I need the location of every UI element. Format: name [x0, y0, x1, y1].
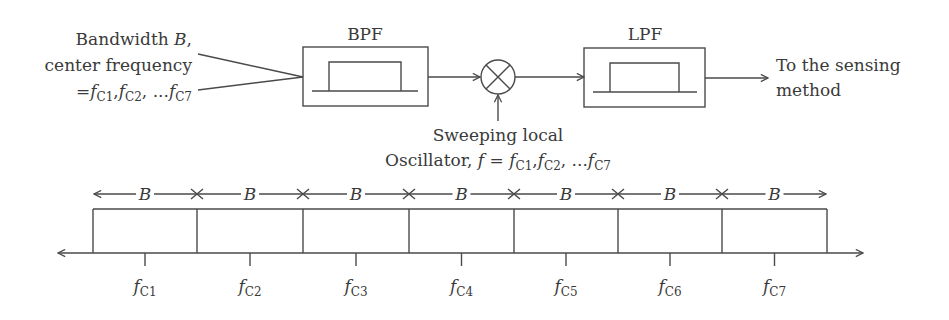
bandwidth-label: B — [454, 184, 468, 204]
input-label-line3: =fC1,fC2, ...fC7 — [76, 81, 192, 104]
channel-center-label: fC1 — [131, 276, 156, 299]
lpf-block: LPF — [584, 24, 705, 107]
channel-center-label: fC5 — [552, 276, 577, 299]
channel-center-label: fC6 — [656, 276, 681, 299]
bandwidth-label: B — [243, 184, 257, 204]
output-label-line1: To the sensing — [776, 55, 901, 75]
input-label: Bandwidth B, center frequency =fC1,fC2, … — [45, 29, 193, 104]
bandwidth-label: B — [349, 184, 363, 204]
channel-center-label: fC7 — [761, 276, 786, 299]
bandwidth-label: B — [138, 184, 152, 204]
input-line-upper — [198, 54, 303, 77]
channel-spectrum: fC1BfC2BfC3BfC4BfC5BfC6BfC7B — [58, 184, 863, 299]
lpf-label: LPF — [628, 24, 663, 44]
channel-center-label: fC2 — [236, 276, 261, 299]
lpf-passband-icon — [610, 63, 679, 92]
bpf-label: BPF — [347, 24, 383, 44]
lpf-box — [584, 48, 705, 107]
bandwidth-label: B — [559, 184, 573, 204]
input-line-lower — [198, 77, 303, 90]
bpf-box — [303, 47, 428, 106]
input-label-line1: Bandwidth B, — [76, 29, 192, 49]
bandwidth-label: B — [767, 184, 781, 204]
channel-center-label: fC4 — [448, 276, 473, 299]
oscillator-label-line2: Oscillator, f = fC1,fC2, ...fC7 — [385, 150, 611, 173]
sweep-receiver-diagram: Bandwidth B, center frequency =fC1,fC2, … — [0, 0, 949, 320]
bandwidth-label: B — [663, 184, 677, 204]
oscillator-label-line1: Sweeping local — [433, 125, 564, 145]
output-label-line2: method — [776, 80, 841, 100]
bpf-block: BPF — [303, 24, 428, 106]
mixer — [481, 60, 515, 94]
input-label-line2: center frequency — [45, 55, 193, 75]
bpf-passband-icon — [329, 62, 401, 91]
channel-center-label: fC3 — [342, 276, 367, 299]
